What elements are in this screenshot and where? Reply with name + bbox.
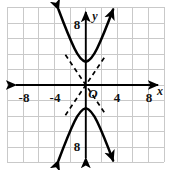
x-tick-label-neg-four: -4 bbox=[50, 90, 61, 105]
hyperbola-graph-figure: -8 -4 4 8 8 8 O x y bbox=[0, 0, 172, 170]
y-tick-label-neg-eight: 8 bbox=[74, 139, 81, 154]
x-tick-label-neg-eight: -8 bbox=[19, 90, 30, 105]
x-tick-label-pos-four: 4 bbox=[114, 90, 121, 105]
y-tick-label-pos-eight: 8 bbox=[74, 17, 81, 32]
x-axis-variable-label: x bbox=[156, 84, 163, 98]
origin-label: O bbox=[88, 86, 98, 101]
coordinate-plane-svg: -8 -4 4 8 8 8 O x y bbox=[0, 0, 172, 170]
x-tick-label-pos-eight: 8 bbox=[146, 90, 153, 105]
y-axis-variable-label: y bbox=[90, 9, 98, 23]
